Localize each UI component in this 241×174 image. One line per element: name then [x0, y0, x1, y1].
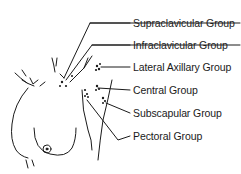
label-subscapular-group: Subscapular Group [133, 107, 222, 119]
torso-side [82, 90, 92, 150]
label-lateral-axillary-group: Lateral Axillary Group [133, 61, 231, 73]
label-infraclavicular-group: Infraclavicular Group [133, 39, 228, 51]
label-supraclavicular-group: Supraclavicular Group [133, 17, 235, 29]
back-line [98, 80, 112, 160]
leader-central [98, 88, 130, 90]
label-pectoral-group: Pectoral Group [133, 130, 202, 142]
axillary-lymph-node-diagram: Supraclavicular Group Infraclavicular Gr… [0, 0, 241, 174]
label-central-group: Central Group [133, 84, 198, 96]
leader-subscapular [106, 103, 130, 113]
leader-pectoral [87, 100, 130, 140]
breast-contour [12, 88, 29, 158]
